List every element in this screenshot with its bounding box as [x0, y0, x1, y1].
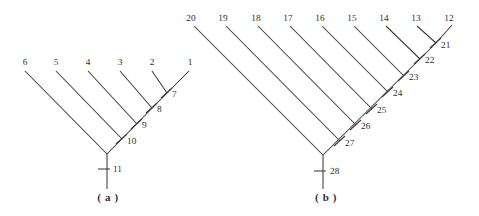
node-tick-9 [131, 119, 142, 129]
panel-caption-b: ( b ) [315, 191, 337, 204]
leaf-3-branch [120, 71, 152, 108]
node-tick-25 [366, 104, 377, 114]
leaf-label-13: 13 [411, 14, 421, 24]
node-tick-24 [382, 87, 393, 97]
node-label-27: 27 [345, 139, 355, 149]
leaf-4-branch [88, 71, 137, 124]
leaf-label-3: 3 [118, 58, 123, 68]
leaf-label-14: 14 [379, 14, 389, 24]
node-tick-27 [334, 136, 345, 146]
leaf-label-1: 1 [188, 58, 193, 68]
leaf-17-branch [290, 26, 372, 109]
leaf-14-branch [386, 26, 420, 59]
figure-root: 7891011654321( a ) 212223242526272820191… [0, 0, 479, 216]
node-tick-10 [116, 134, 127, 144]
node-label-21: 21 [441, 41, 451, 51]
node-tick-7 [161, 88, 172, 98]
node-label-23: 23 [409, 73, 419, 83]
panel-a: 7891011654321( a ) [23, 58, 193, 204]
node-label-26: 26 [361, 122, 371, 132]
node-tick-26 [350, 120, 361, 130]
node-label-24: 24 [393, 89, 403, 99]
leaf-label-5: 5 [54, 58, 59, 68]
leaf-label-18: 18 [251, 14, 261, 24]
leaf-label-12: 12 [444, 14, 454, 24]
leaf-6-branch [25, 71, 107, 154]
leaf-13-branch [417, 26, 436, 43]
node-label-22: 22 [425, 56, 435, 66]
node-label-8: 8 [157, 105, 162, 115]
leaf-label-19: 19 [218, 14, 228, 24]
leaf-2-branch [152, 71, 167, 93]
leaf-19-branch [226, 26, 340, 141]
node-label-11: 11 [113, 165, 122, 175]
node-label-7: 7 [172, 90, 177, 100]
leaf-18-branch [258, 26, 356, 125]
leaf-5-branch [56, 71, 122, 139]
node-label-9: 9 [142, 121, 147, 131]
leaf-label-6: 6 [23, 58, 28, 68]
node-label-10: 10 [127, 137, 137, 147]
node-tick-8 [146, 103, 157, 113]
node-tick-23 [398, 71, 409, 81]
panel-caption-a: ( a ) [97, 191, 118, 204]
panel-b: 2122232425262728201918171615141312( b ) [186, 14, 454, 204]
leaf-label-2: 2 [150, 58, 155, 68]
leaf-20-branch [194, 26, 323, 155]
leaf-label-4: 4 [86, 58, 91, 68]
leaf-16-branch [322, 26, 388, 92]
leaf-label-20: 20 [186, 14, 196, 24]
leaf-label-17: 17 [283, 14, 293, 24]
node-label-25: 25 [377, 106, 387, 116]
leaf-15-branch [354, 26, 404, 76]
node-label-28: 28 [330, 167, 340, 177]
tree-diagram-canvas: 7891011654321( a ) 212223242526272820191… [0, 0, 479, 216]
leaf-label-16: 16 [315, 14, 325, 24]
leaf-label-15: 15 [347, 14, 357, 24]
